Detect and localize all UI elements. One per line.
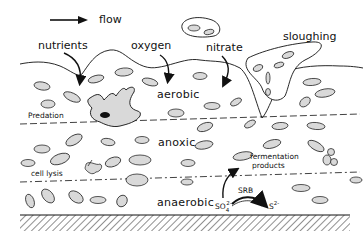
srb-label: SRB [238,187,253,195]
aerobic-zone-label: aerobic [157,89,200,100]
flow-arrow-icon [50,16,88,24]
cell-cluster [306,138,337,165]
nutrients-arrow-icon [64,53,80,82]
oxygen-arrow-icon [160,55,169,80]
fermentation-arrow-icon [223,170,236,198]
lysed-cell [85,160,102,174]
oxygen-label: oxygen [131,40,171,51]
substratum [20,215,350,231]
fermentation-label: fermentation [250,153,299,161]
sulfate-subscript: 4 [226,207,230,213]
sloughing-label: sloughing [283,31,336,42]
biofilm-diagram: flow nutrients oxygen nitrate sloughing … [0,0,363,241]
sulfide-superscript: 2- [274,200,279,206]
protozoan-predator [88,87,141,126]
floating-floc [182,18,220,37]
aerobic-anoxic-boundary [20,114,360,124]
cell-lysis-label: cell lysis [31,170,63,178]
sloughing-floc [246,42,321,100]
nutrients-label: nutrients [38,40,88,51]
sulfide-label: S2- [269,203,279,211]
nitrate-arrow-icon [222,56,228,84]
sulfate-label: SO42- [215,203,235,211]
sulfate-base: SO [215,202,226,211]
sulfate-superscript: 2- [226,200,231,206]
anaerobic-zone-label: anaerobic [157,197,214,208]
flow-label: flow [99,14,122,25]
predation-label: Predation [28,112,64,120]
fermentation-products-label: products [252,162,285,170]
srb-arrow-icon [232,197,264,206]
nitrate-label: nitrate [206,42,243,53]
anoxic-zone-label: anoxic [158,137,196,148]
